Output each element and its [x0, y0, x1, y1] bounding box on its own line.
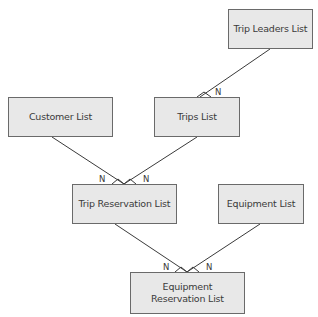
entity-trip-leaders-list: Trip Leaders List: [228, 9, 313, 49]
entity-equipment-reservation-list: Equipment Reservation List: [130, 272, 245, 314]
entity-trip-reservation-list: Trip Reservation List: [72, 184, 177, 224]
edge-trips-trip-reservation: [124, 137, 197, 184]
er-diagram: N N N N N Trip Leaders List Customer Lis…: [0, 0, 318, 317]
cardinality-label: N: [143, 175, 149, 184]
entity-label: Equipment Reservation List: [151, 281, 224, 305]
cardinality-label: N: [215, 88, 221, 97]
entity-label: Customer List: [29, 111, 92, 123]
edge-customer-trip-reservation: [52, 137, 124, 184]
entity-customer-list: Customer List: [8, 97, 113, 137]
cardinality-label: N: [206, 263, 212, 272]
entity-label: Trips List: [177, 111, 217, 123]
entity-equipment-list: Equipment List: [218, 184, 304, 224]
entity-trips-list: Trips List: [154, 97, 240, 137]
edge-trip-reservation-equipment-reservation: [115, 224, 187, 272]
entity-label: Trip Leaders List: [234, 23, 308, 35]
entity-label: Equipment List: [227, 198, 295, 210]
edge-equipment-equipment-reservation: [187, 224, 260, 272]
entity-label: Trip Reservation List: [79, 198, 171, 210]
cardinality-label: N: [99, 175, 105, 184]
cardinality-label: N: [163, 263, 169, 272]
edge-trip-leaders-trips: [200, 49, 270, 97]
